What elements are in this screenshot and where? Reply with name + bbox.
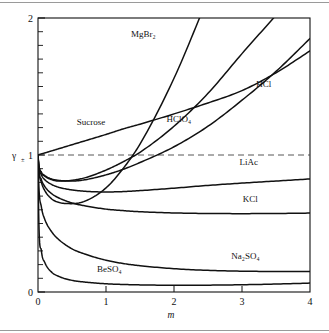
curve-label-kcl: KCl (243, 194, 259, 204)
figure-container: 012 01234 γ ± m SucroseMgBr₂HClO₄HClLiAc… (0, 0, 329, 333)
x-tick-label: 4 (308, 296, 313, 307)
x-axis-tick-labels: 01234 (36, 296, 313, 307)
y-tick-label: 1 (28, 150, 33, 161)
x-axis-title: m (168, 310, 175, 320)
curve-label-hcl: HCl (256, 79, 272, 89)
x-tick-label: 3 (240, 296, 245, 307)
x-tick-label: 0 (36, 296, 41, 307)
y-axis-tick-labels: 012 (28, 13, 33, 298)
curve-hclo4 (38, 18, 274, 181)
curve-sucrose (38, 51, 310, 155)
curve-label-mgbr2: MgBr₂ (131, 29, 156, 39)
curve-mgbr2 (38, 18, 200, 204)
y-axis-title-subscript: ± (21, 156, 25, 163)
curve-group (38, 18, 310, 285)
curve-kcl (38, 155, 310, 214)
curve-hcl (38, 39, 310, 181)
curve-label-hclo4: HClO₄ (166, 114, 191, 124)
x-tick-label: 1 (104, 296, 109, 307)
curve-label-liac: LiAc (240, 157, 259, 167)
y-tick-label: 2 (28, 13, 33, 24)
curve-beso4 (38, 155, 310, 285)
y-tick-label: 0 (28, 287, 33, 298)
curve-label-sucrose: Sucrose (77, 117, 106, 127)
y-axis-title-gamma: γ (11, 151, 16, 161)
activity-coefficient-chart: 012 01234 γ ± m SucroseMgBr₂HClO₄HClLiAc… (0, 0, 329, 333)
x-tick-label: 2 (172, 296, 177, 307)
curve-inline-labels: SucroseMgBr₂HClO₄HClLiAcKClNa₂SO₄BeSO₄ (77, 29, 272, 274)
curve-liac (38, 155, 310, 192)
curve-label-beso4: BeSO₄ (97, 264, 122, 274)
curve-label-na2so4: Na₂SO₄ (231, 251, 259, 261)
x-axis-major-ticks (106, 286, 242, 292)
y-axis-title: γ ± (11, 151, 25, 163)
clipped-curves (38, 18, 310, 285)
